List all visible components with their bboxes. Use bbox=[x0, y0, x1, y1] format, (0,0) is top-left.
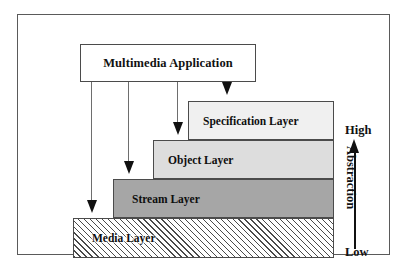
abstraction-axis-label: Abstraction bbox=[343, 146, 358, 256]
layer-stream: Stream Layer bbox=[113, 179, 334, 218]
layer-object-label: Object Layer bbox=[168, 154, 233, 166]
abstraction-high-label: High bbox=[345, 123, 371, 138]
connector-arrowhead-to-object bbox=[173, 122, 183, 135]
abstraction-low-label: Low bbox=[345, 245, 369, 260]
multimedia-application-box: Multimedia Application bbox=[80, 44, 256, 82]
layer-specification-label: Specification Layer bbox=[203, 115, 299, 127]
multimedia-application-label: Multimedia Application bbox=[103, 56, 233, 71]
connector-line-to-object bbox=[177, 82, 178, 122]
diagram-frame: Multimedia Application Specification Lay… bbox=[17, 14, 390, 255]
layer-media: Media Layer bbox=[73, 218, 334, 258]
layer-specification: Specification Layer bbox=[188, 101, 334, 140]
connector-arrowhead-to-media bbox=[87, 200, 97, 213]
connector-arrowhead-to-specification bbox=[222, 82, 232, 95]
diagram-canvas: Multimedia Application Specification Lay… bbox=[0, 0, 408, 270]
layer-object: Object Layer bbox=[153, 140, 334, 179]
connector-line-to-stream bbox=[128, 82, 129, 161]
layer-media-label: Media Layer bbox=[92, 232, 156, 244]
layer-stream-label: Stream Layer bbox=[132, 193, 200, 205]
connector-line-to-media bbox=[91, 82, 92, 200]
connector-arrowhead-to-stream bbox=[124, 161, 134, 174]
